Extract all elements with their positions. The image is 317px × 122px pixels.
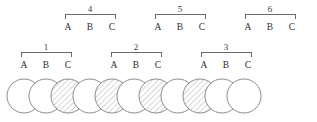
site-letter-label: A (111, 60, 118, 70)
site-letter-label: C (289, 22, 295, 32)
group-number-label: 4 (88, 4, 93, 14)
site-letter-label: B (43, 60, 49, 70)
group-number-label: 6 (268, 4, 273, 14)
site-letter-label: A (65, 22, 72, 32)
site-letter-label: A (21, 60, 28, 70)
bracket-group: 6ABC (245, 4, 296, 32)
site-letter-label: C (199, 22, 205, 32)
bracket-line (155, 14, 205, 19)
group-number-label: 3 (224, 42, 229, 52)
bracket-groups: 4ABC5ABC6ABC1ABC2ABC3ABC (21, 4, 296, 70)
group-number-label: 1 (44, 42, 49, 52)
chain-circle (227, 79, 261, 113)
bracket-line (65, 14, 115, 19)
site-letter-label: B (133, 60, 139, 70)
group-number-label: 5 (178, 4, 183, 14)
site-letter-label: C (155, 60, 161, 70)
bracket-group: 4ABC (65, 4, 116, 32)
diagram-svg: 4ABC5ABC6ABC1ABC2ABC3ABC (0, 0, 317, 122)
bracket-line (111, 52, 161, 57)
site-letter-label: B (177, 22, 183, 32)
bracket-line (21, 52, 71, 57)
bracket-line (201, 52, 251, 57)
site-letter-label: B (87, 22, 93, 32)
group-number-label: 2 (134, 42, 139, 52)
site-letter-label: C (109, 22, 115, 32)
site-letter-label: A (201, 60, 208, 70)
site-letter-label: C (65, 60, 71, 70)
bracket-group: 5ABC (155, 4, 206, 32)
site-letter-label: A (245, 22, 252, 32)
site-letter-label: A (155, 22, 162, 32)
site-letter-label: C (245, 60, 251, 70)
bracket-group: 3ABC (201, 42, 252, 70)
figure-canvas: 4ABC5ABC6ABC1ABC2ABC3ABC 4 5 6 1 2 3 A B… (0, 0, 317, 122)
circle-chain (7, 79, 261, 113)
site-letter-label: B (267, 22, 273, 32)
site-letter-label: B (223, 60, 229, 70)
bracket-line (245, 14, 295, 19)
bracket-group: 2ABC (111, 42, 162, 70)
bracket-group: 1ABC (21, 42, 72, 70)
